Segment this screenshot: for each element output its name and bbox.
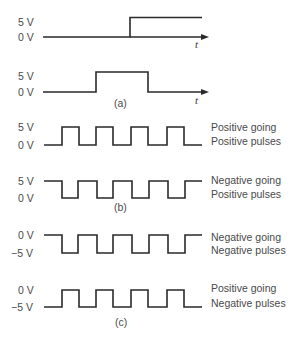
- negative-going-positive-pulses: 5 V 0 V Negative going Positive pulses: [18, 174, 281, 204]
- step-time-label: t: [195, 38, 199, 50]
- panel-a-caption: (a): [114, 97, 127, 109]
- b1-desc-line1: Positive going: [211, 121, 277, 133]
- pulse-high-label: 5 V: [18, 70, 34, 82]
- c1-desc-line1: Negative going: [211, 231, 281, 243]
- waveform-diagram: 5 V 0 V t 5 V 0 V t (a) 5 V 0 V Positive…: [0, 0, 290, 345]
- b2-high-label: 5 V: [18, 175, 34, 187]
- b1-pulse-train: [44, 127, 202, 145]
- panel-b-caption: (b): [114, 201, 127, 213]
- c1-high-label: 0 V: [18, 229, 34, 241]
- c2-high-label: 0 V: [18, 284, 34, 296]
- c1-desc-line2: Negative pulses: [211, 244, 286, 256]
- c2-desc-line2: Negative pulses: [211, 297, 286, 309]
- c1-low-label: −5 V: [11, 247, 33, 259]
- pulse-low-label: 0 V: [18, 86, 34, 98]
- step-low-label: 0 V: [18, 31, 34, 43]
- pulse-waveforms-figure: 5 V 0 V t 5 V 0 V t (a) 5 V 0 V Positive…: [0, 0, 290, 345]
- c2-low-label: −5 V: [11, 301, 33, 313]
- b1-desc-line2: Positive pulses: [211, 135, 281, 147]
- positive-going-negative-pulses: 0 V −5 V Positive going Negative pulses: [11, 282, 286, 313]
- negative-going-negative-pulses: 0 V −5 V Negative going Negative pulses: [11, 229, 286, 259]
- time-axis-arrow-icon: [201, 89, 209, 95]
- b2-low-label: 0 V: [18, 192, 34, 204]
- c2-pulse-train: [44, 290, 202, 307]
- step-high-label: 5 V: [18, 16, 34, 28]
- panel-c-caption: (c): [115, 316, 127, 328]
- positive-going-positive-pulses: 5 V 0 V Positive going Positive pulses: [18, 121, 281, 151]
- b1-high-label: 5 V: [18, 121, 34, 133]
- pulse-time-label: t: [195, 94, 199, 106]
- step-signal-line: [43, 18, 202, 38]
- c2-desc-line1: Positive going: [211, 282, 277, 294]
- step-waveform: 5 V 0 V t: [18, 16, 209, 50]
- time-axis-arrow-icon: [201, 34, 209, 40]
- b2-desc-line2: Positive pulses: [211, 188, 281, 200]
- b1-low-label: 0 V: [18, 139, 34, 151]
- b2-desc-line1: Negative going: [211, 174, 281, 186]
- pulse-signal-line: [43, 72, 203, 92]
- b2-pulse-train: [44, 181, 202, 198]
- c1-pulse-train: [44, 235, 202, 253]
